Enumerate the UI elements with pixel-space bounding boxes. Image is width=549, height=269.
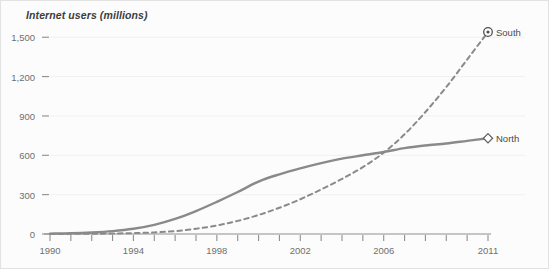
series-label-north: North xyxy=(496,133,519,144)
marker-circle-dot-south xyxy=(486,30,489,33)
series-markers-group xyxy=(483,28,492,143)
data-series-group xyxy=(50,32,488,234)
y-tick-label: 300 xyxy=(19,189,35,200)
x-tick-label: 2006 xyxy=(373,245,394,256)
series-line-north xyxy=(50,138,488,233)
x-tickmarks-group xyxy=(50,235,488,241)
series-label-south: South xyxy=(496,27,521,38)
x-tick-label: 2011 xyxy=(478,245,498,256)
x-tick-label: 2002 xyxy=(290,245,311,256)
chart-plot-area xyxy=(1,1,549,269)
x-tick-label: 1994 xyxy=(123,245,144,256)
marker-diamond-north xyxy=(483,134,492,143)
y-tick-label: 0 xyxy=(30,229,35,240)
y-tick-label: 900 xyxy=(19,110,35,121)
series-line-south xyxy=(50,32,488,234)
chart-figure: Internet users (millions) 03006009001,20… xyxy=(0,0,549,269)
x-tick-label: 1990 xyxy=(39,245,60,256)
y-tick-label: 1,500 xyxy=(11,32,35,43)
y-tickmarks-group xyxy=(42,37,49,234)
y-tick-label: 600 xyxy=(19,150,35,161)
y-tick-label: 1,200 xyxy=(11,71,35,82)
x-tick-label: 1998 xyxy=(206,245,227,256)
